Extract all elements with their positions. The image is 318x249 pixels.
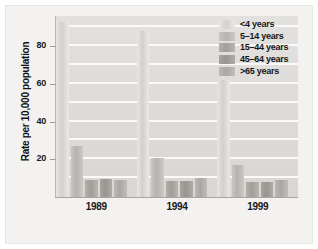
x-axis-tick-label: 1994 xyxy=(137,201,218,212)
bar xyxy=(261,182,274,197)
legend-swatch xyxy=(219,20,235,29)
legend-item: 15–44 years xyxy=(219,42,288,54)
y-axis-tick-label: 40 xyxy=(36,117,46,126)
legend-label: 15–44 years xyxy=(240,43,288,52)
legend-swatch xyxy=(219,32,235,41)
bar xyxy=(217,80,230,197)
legend-swatch xyxy=(219,43,235,52)
y-axis-tick xyxy=(50,122,55,123)
bar xyxy=(151,158,164,197)
y-axis-title: Rate per 10,000 population xyxy=(20,22,31,182)
legend-label: 45–64 years xyxy=(240,55,288,64)
bar xyxy=(180,181,193,197)
legend-item: <4 years xyxy=(219,19,288,31)
bar xyxy=(166,181,179,197)
legend-label: 5–14 years xyxy=(240,32,284,41)
legend-swatch xyxy=(219,55,235,64)
bar xyxy=(246,182,259,197)
x-axis-tick-label: 1999 xyxy=(217,201,298,212)
legend-item: 5–14 years xyxy=(219,31,288,43)
legend-swatch xyxy=(219,67,235,76)
legend-label: >65 years xyxy=(240,67,279,76)
y-axis-tick xyxy=(50,46,55,47)
y-axis-tick-label: 60 xyxy=(36,79,46,88)
bar xyxy=(100,179,113,197)
bar xyxy=(232,165,245,197)
x-axis-line xyxy=(55,197,298,198)
y-axis-tick-label: 80 xyxy=(36,41,46,50)
bar xyxy=(195,178,208,197)
bar xyxy=(275,180,288,197)
bar xyxy=(85,180,98,197)
y-axis-tick-label: 20 xyxy=(36,154,46,163)
y-axis-tick xyxy=(50,159,55,160)
legend: <4 years5–14 years15–44 years45–64 years… xyxy=(219,19,288,77)
bar xyxy=(137,31,150,197)
legend-item: 45–64 years xyxy=(219,54,288,66)
bar xyxy=(114,180,127,197)
bar xyxy=(71,146,84,197)
x-axis-tick-label: 1989 xyxy=(56,201,137,212)
y-axis-tick xyxy=(50,84,55,85)
chart-figure: 20406080 Rate per 10,000 population 1989… xyxy=(0,0,318,249)
legend-item: >65 years xyxy=(219,65,288,77)
legend-label: <4 years xyxy=(240,20,274,29)
bar xyxy=(56,22,69,197)
